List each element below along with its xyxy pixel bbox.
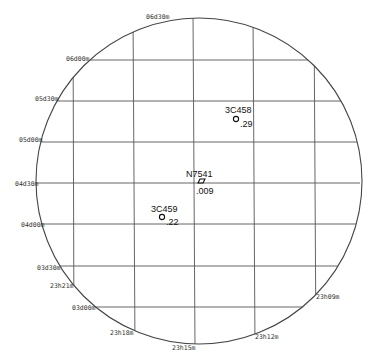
object-name: N7541 <box>186 169 213 179</box>
sky-chart: 06d30m 06d00m 05d30m 05d00m 04d30m 04d00… <box>0 0 371 360</box>
object-n7541[interactable]: N7541 .009 <box>186 169 214 196</box>
object-redshift: .009 <box>196 186 214 196</box>
dec-label-06d00m: 06d00m <box>66 55 90 63</box>
ra-line-23h12m <box>253 10 255 350</box>
object-name: 3C459 <box>151 204 178 214</box>
dec-label-05d30m: 05d30m <box>35 95 59 103</box>
object-name: 3C458 <box>225 105 252 115</box>
dec-label-04d30m: 04d30m <box>15 180 39 188</box>
ra-label-23h18m: 23h18m <box>110 329 134 337</box>
ra-line-23h18m <box>133 10 135 350</box>
ra-label-23h21m: 23h21m <box>50 282 74 290</box>
radio-source-circle-icon <box>159 214 164 219</box>
ra-label-23h15m: 23h15m <box>172 344 196 352</box>
object-redshift: .29 <box>240 119 253 129</box>
dec-label-06d30m: 06d30m <box>146 13 170 21</box>
dec-label-05d00m: 05d00m <box>19 136 43 144</box>
radio-source-circle-icon <box>233 116 238 121</box>
galaxy-ellipse-icon <box>198 179 205 183</box>
ra-line-23h15m <box>193 10 195 350</box>
dec-label-04d00m: 04d00m <box>21 221 45 229</box>
object-redshift: .22 <box>166 217 179 227</box>
ra-label-23h09m: 23h09m <box>316 293 340 301</box>
dec-label-03d00m: 03d00m <box>72 304 96 312</box>
object-3c458[interactable]: 3C458 .29 <box>225 105 253 129</box>
ra-label-23h12m: 23h12m <box>255 333 279 341</box>
dec-label-03d30m: 03d30m <box>37 264 61 272</box>
